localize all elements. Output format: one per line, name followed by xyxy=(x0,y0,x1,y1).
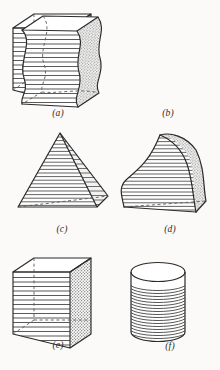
figure-caption-d: (d) xyxy=(150,224,190,234)
figure-caption-f: (f) xyxy=(150,341,190,351)
figure-plate: (a) (b) (c) (d) (e) (f) xyxy=(0,0,220,370)
figure-c-pyramid xyxy=(15,133,115,207)
figure-b-wavy-prism xyxy=(14,16,104,107)
figure-caption-e: (e) xyxy=(38,340,78,350)
solids-diagram xyxy=(0,0,220,370)
figure-f-cylinder xyxy=(129,263,187,345)
figure-caption-c: (c) xyxy=(42,224,82,234)
figure-caption-b: (b) xyxy=(148,108,188,118)
figure-d-horn-solid xyxy=(112,134,210,212)
figure-e-prism xyxy=(12,258,91,348)
figure-caption-a: (a) xyxy=(38,108,78,118)
